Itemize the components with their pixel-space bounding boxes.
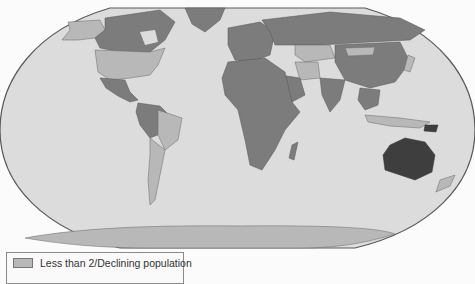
- region-mongolia: [345, 47, 375, 56]
- region-russia: [262, 12, 425, 45]
- legend-swatch: [13, 258, 33, 268]
- world-map: [0, 0, 475, 250]
- legend-item: Less than 2/Declining population: [13, 257, 192, 269]
- legend-label: Less than 2/Declining population: [40, 257, 192, 269]
- map-legend: Less than 2/Declining population: [6, 252, 184, 284]
- region-papua: [424, 125, 438, 132]
